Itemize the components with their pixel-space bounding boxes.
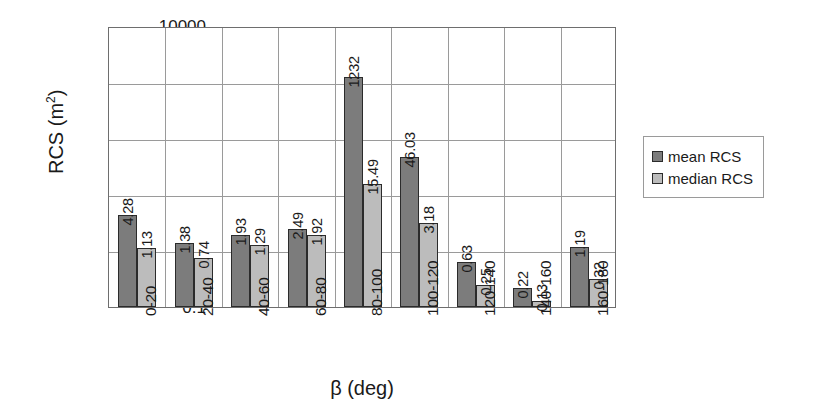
x-tick-label: 160-180 [595,261,611,316]
bar-mean-rcs [231,235,250,307]
gridline-vertical [561,28,562,307]
gridline-vertical [222,28,223,307]
x-tick-label: 100-120 [425,261,441,316]
rcs-bar-chart: RCS (m2) 0.1110100100010000 4.281.131.38… [0,0,824,420]
gridline-vertical [504,28,505,307]
bar-value-label: 1232 [347,56,362,87]
legend-swatch-median-icon [652,173,663,184]
y-axis-title-tail: ) [45,90,67,97]
y-axis-title-exponent: 2 [44,96,58,103]
bar-value-label: 1.19 [572,230,587,257]
bar-value-label: 4.28 [121,198,136,225]
legend: mean RCS median RCS [643,136,764,198]
gridline-vertical [335,28,336,307]
bar-value-label: 15.49 [366,159,381,194]
bar-value-label: 3.18 [422,206,437,233]
bar-mean-rcs [288,229,307,307]
legend-item-median: median RCS [652,167,753,189]
bar-value-label: 0.74 [196,241,211,268]
x-tick-label: 80-100 [369,269,385,316]
bar-mean-rcs [400,157,419,307]
bar-value-label: 1.93 [234,218,249,245]
legend-label-mean: mean RCS [668,148,741,165]
x-tick-label: 0-20 [143,286,159,316]
y-axis-title: RCS (m2) [44,32,68,232]
bar-mean-rcs [344,77,363,307]
legend-swatch-mean-icon [652,151,663,162]
bar-value-label: 1.92 [309,218,324,245]
legend-label-median: median RCS [668,170,753,187]
bar-value-label: 1.38 [177,226,192,253]
x-tick-label: 140-160 [538,261,554,316]
y-axis-title-text: RCS (m [45,103,67,174]
bar-value-label: 1.29 [253,228,268,255]
legend-item-mean: mean RCS [652,145,753,167]
gridline-vertical [448,28,449,307]
gridline-vertical [391,28,392,307]
bar-value-label: 0.63 [459,245,474,272]
bar-mean-rcs [118,215,137,307]
x-tick-label: 20-40 [200,277,216,316]
bar-value-label: 46.03 [403,133,418,168]
x-tick-label: 120-140 [482,261,498,316]
x-tick-label: 60-80 [313,277,329,316]
bar-value-label: 1.13 [140,231,155,258]
gridline-vertical [278,28,279,307]
bar-value-label: 2.49 [290,212,305,239]
gridline-vertical [165,28,166,307]
x-tick-label: 40-60 [256,277,272,316]
x-axis-title: β (deg) [108,377,616,400]
bar-value-label: 0.22 [516,271,531,298]
